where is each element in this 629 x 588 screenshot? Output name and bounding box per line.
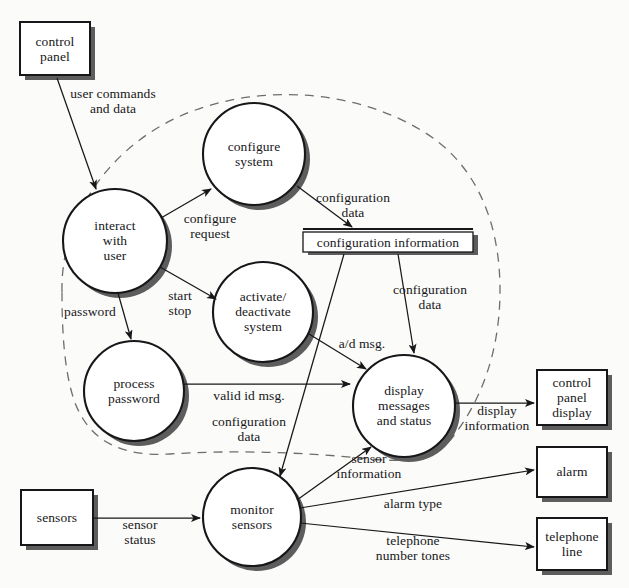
flow-label-configure-request: configure request (184, 211, 237, 241)
entity-label-alarm: alarm (556, 464, 587, 479)
flow-label-configuration-data-1: configuration data (316, 190, 390, 220)
flow-label-telephone-number-tones: telephone number tones (376, 533, 450, 563)
flow-label-user-commands-and-data: user commands and data (70, 86, 156, 116)
process-label-monitor-sensors: monitor sensors (230, 502, 273, 532)
flow-label-sensor-status: sensor status (122, 517, 157, 547)
flow-label-valid-id-msg: valid id msg. (213, 388, 284, 403)
entity-label-telephone-line: telephone line (545, 529, 598, 559)
flow-label-display-information: display information (465, 403, 530, 433)
entity-label-control-panel-display: control panel display (552, 375, 592, 420)
flow-label-start-stop: start stop (168, 288, 192, 318)
flow-label-configuration-data-3: configuration data (212, 414, 286, 444)
flow-label-alarm-type: alarm type (384, 496, 442, 511)
dfd-canvas: control panel sensors control panel disp… (0, 0, 629, 588)
store-label-configuration-information: configuration information (317, 235, 459, 250)
entity-label-sensors: sensors (37, 510, 77, 525)
flow-label-sensor-information: sensor information (337, 451, 402, 481)
process-label-configure-system: configure system (228, 139, 281, 169)
process-label-display-messages: display messages and status (377, 383, 432, 428)
process-label-process-password: process password (108, 376, 160, 406)
entity-label-control-panel: control panel (36, 34, 75, 64)
flow-label-password: password (64, 304, 116, 319)
flow-label-a-d-msg: a/d msg. (339, 336, 386, 351)
flow-password (118, 293, 131, 339)
process-label-interact-with-user: interact with user (94, 218, 135, 263)
process-label-activate-deactivate: activate/ deactivate system (235, 289, 291, 334)
flow-label-configuration-data-2: configuration data (393, 282, 467, 312)
